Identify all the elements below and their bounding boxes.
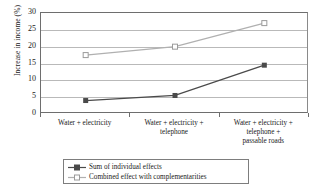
legend-label-1: Combined effect with complementarities <box>89 173 206 182</box>
legend-item-sum-of-individual-effects: Sum of individual effects <box>68 163 244 172</box>
y-tick-label-2: 10 <box>14 75 36 83</box>
y-tick-label-6: 30 <box>14 8 36 16</box>
legend-label-0: Sum of individual effects <box>89 163 162 172</box>
x-axis-tick-3 <box>308 113 309 117</box>
plot-area <box>40 12 308 113</box>
data-point-s1-1 <box>173 44 178 49</box>
series-canvas <box>41 13 309 114</box>
y-tick-label-4: 20 <box>14 42 36 50</box>
x-axis-tick-1 <box>129 113 130 117</box>
y-tick-label-3: 15 <box>14 59 36 67</box>
data-point-s0-2 <box>262 63 267 68</box>
data-point-s1-2 <box>262 21 267 26</box>
data-point-s0-1 <box>173 93 178 98</box>
chart-figure: Increase in income (%) 051015202530 Wate… <box>0 0 312 187</box>
x-axis-label-1: Water + electricity +telephone <box>129 119 218 153</box>
legend-marker-open-square-icon <box>68 173 86 182</box>
chart-legend: Sum of individual effects Combined effec… <box>63 159 249 184</box>
y-tick-label-1: 5 <box>14 92 36 100</box>
series-line-1 <box>86 23 265 55</box>
data-point-s1-0 <box>83 53 88 58</box>
legend-item-combined-effect: Combined effect with complementarities <box>68 173 244 182</box>
x-axis-tick-2 <box>219 113 220 117</box>
y-tick-label-5: 25 <box>14 25 36 33</box>
x-axis-category-labels: Water + electricityWater + electricity +… <box>40 119 308 153</box>
x-axis-label-0: Water + electricity <box>40 119 129 153</box>
data-point-s0-0 <box>83 98 88 103</box>
legend-marker-filled-square-icon <box>68 163 86 172</box>
x-axis-label-2: Water + electricity +telephone +passable… <box>219 119 308 153</box>
x-axis-tick-0 <box>40 113 41 117</box>
y-tick-label-0: 0 <box>14 109 36 117</box>
y-axis-tick-labels: 051015202530 <box>14 12 36 113</box>
